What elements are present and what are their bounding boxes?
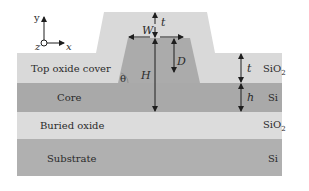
core-ridge	[118, 38, 200, 83]
waveguide-diagram: y z x t W H D θ t h Top oxide cover Core…	[0, 0, 309, 191]
t-side-label: t	[247, 62, 252, 75]
material-label-substrate: Si	[268, 153, 278, 164]
h-small-label: h	[247, 91, 254, 104]
z-axis-label: z	[34, 41, 41, 52]
layer-label-substrate: Substrate	[47, 153, 97, 164]
d-label: D	[176, 55, 186, 68]
h-big-label: H	[140, 69, 151, 82]
layer-label-core: Core	[57, 92, 81, 103]
theta-label: θ	[120, 73, 126, 84]
axis-indicator: y z x	[33, 12, 72, 52]
y-axis-label: y	[33, 12, 40, 23]
layer-label-buried-oxide: Buried oxide	[40, 120, 105, 131]
w-label: W	[142, 24, 155, 37]
x-axis-label: x	[66, 41, 72, 52]
material-label-core: Si	[268, 92, 278, 103]
t-top-label: t	[161, 16, 166, 29]
layer-label-top-oxide: Top oxide cover	[31, 63, 111, 74]
z-axis-circle-icon	[41, 40, 47, 46]
